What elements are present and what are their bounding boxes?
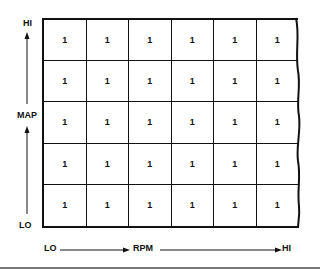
grid-cell: 1 bbox=[172, 61, 215, 101]
grid-cell: 1 bbox=[172, 144, 215, 184]
grid-cell: 1 bbox=[87, 61, 130, 101]
grid-cell: 1 bbox=[44, 102, 87, 142]
grid-row: 1 1 1 1 1 1 bbox=[44, 185, 298, 226]
grid-cell: 1 bbox=[129, 102, 172, 142]
grid-cell: 1 bbox=[172, 20, 215, 60]
grid-cell: 1 bbox=[214, 185, 257, 226]
y-axis-up-arrow-lower bbox=[23, 126, 33, 216]
y-axis-hi-label: HI bbox=[23, 18, 32, 28]
x-axis-label: RPM bbox=[133, 243, 153, 253]
grid-cell: 1 bbox=[44, 144, 87, 184]
grid-row: 1 1 1 1 1 1 bbox=[44, 102, 298, 143]
grid-cell: 1 bbox=[44, 61, 87, 101]
grid-cell: 1 bbox=[129, 20, 172, 60]
torn-right-edge bbox=[292, 16, 304, 232]
grid-cell: 1 bbox=[214, 102, 257, 142]
grid-cell: 1 bbox=[214, 20, 257, 60]
grid-cell: 1 bbox=[129, 144, 172, 184]
y-axis-lo-label: LO bbox=[19, 220, 32, 230]
grid-row: 1 1 1 1 1 1 bbox=[44, 61, 298, 102]
grid-cell: 1 bbox=[172, 185, 215, 226]
grid-cell: 1 bbox=[87, 20, 130, 60]
grid-cell: 1 bbox=[214, 61, 257, 101]
grid-row: 1 1 1 1 1 1 bbox=[44, 20, 298, 61]
grid-cell: 1 bbox=[214, 144, 257, 184]
bottom-rule bbox=[0, 267, 320, 269]
grid-cell: 1 bbox=[44, 185, 87, 226]
grid-cell: 1 bbox=[44, 20, 87, 60]
grid-cell: 1 bbox=[87, 102, 130, 142]
grid-cell: 1 bbox=[129, 61, 172, 101]
grid-cell: 1 bbox=[87, 185, 130, 226]
lookup-table-grid: 1 1 1 1 1 1 1 1 1 1 1 1 1 1 1 1 1 1 1 1 … bbox=[42, 18, 298, 228]
x-axis-right-arrow-left bbox=[60, 246, 130, 254]
grid-cell: 1 bbox=[172, 102, 215, 142]
x-axis-right-arrow-right bbox=[160, 246, 282, 254]
y-axis-up-arrow-upper bbox=[23, 32, 33, 112]
x-axis-lo-label: LO bbox=[44, 243, 57, 253]
x-axis-hi-label: HI bbox=[282, 243, 291, 253]
grid-row: 1 1 1 1 1 1 bbox=[44, 144, 298, 185]
grid-cell: 1 bbox=[87, 144, 130, 184]
grid-cell: 1 bbox=[129, 185, 172, 226]
